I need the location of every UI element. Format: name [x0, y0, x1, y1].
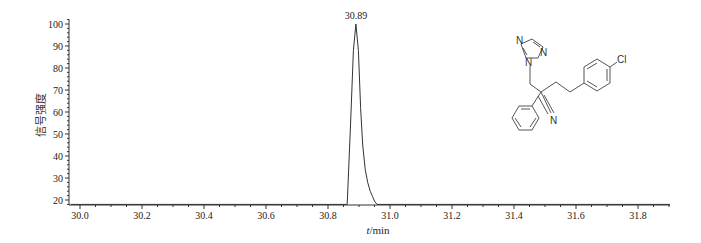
y-tick-label: 30 [53, 173, 63, 184]
phenyl-ring [512, 106, 539, 130]
y-axis-label: 信号强度 [32, 93, 48, 137]
x-tick-label: 30.6 [257, 210, 275, 221]
x-tick-label: 30.0 [71, 210, 89, 221]
atom-label-n: N [540, 47, 547, 58]
x-tick-label: 30.4 [195, 210, 213, 221]
atom-label-n: N [525, 57, 532, 68]
y-tick-label: 60 [53, 107, 63, 118]
chromatogram-trace [71, 24, 670, 204]
atom-label-cl: Cl [617, 54, 626, 65]
x-tick-label: 31.0 [381, 210, 399, 221]
y-tick-label: 80 [53, 63, 63, 74]
y-tick-label: 50 [53, 129, 63, 140]
chromatogram-chart: 2030405060708090100 30.030.230.430.630.8… [0, 0, 701, 243]
atom-label-n: N [550, 115, 557, 126]
y-tick-label: 20 [53, 195, 63, 206]
y-tick-label: 90 [53, 41, 63, 52]
chemical-structure-inset: N N N Cl N [512, 35, 626, 130]
y-tick-label: 70 [53, 85, 63, 96]
x-tick-label: 30.8 [319, 210, 337, 221]
x-tick-label: 31.6 [567, 210, 585, 221]
x-tick-label: 31.4 [505, 210, 523, 221]
atom-label-n: N [516, 35, 523, 46]
x-tick-label: 31.2 [443, 210, 461, 221]
y-tick-label: 40 [53, 151, 63, 162]
y-tick-label: 100 [48, 19, 63, 30]
chlorophenyl-ring [584, 59, 610, 91]
peak-label: 30.89 [345, 10, 368, 21]
x-tick-label: 31.8 [629, 210, 647, 221]
x-tick-label: 30.2 [133, 210, 151, 221]
x-axis: 30.030.230.430.630.831.031.231.431.631.8 [69, 205, 670, 221]
x-axis-label: t/min [366, 224, 389, 236]
x-axis-unit: /min [369, 224, 389, 236]
peak-annotations: 30.89 [345, 10, 368, 21]
y-axis: 2030405060708090100 [48, 19, 69, 206]
